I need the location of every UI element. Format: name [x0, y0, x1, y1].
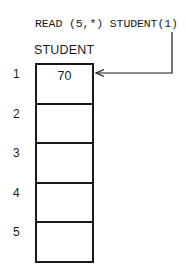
assignment-arrow: [0, 0, 186, 274]
